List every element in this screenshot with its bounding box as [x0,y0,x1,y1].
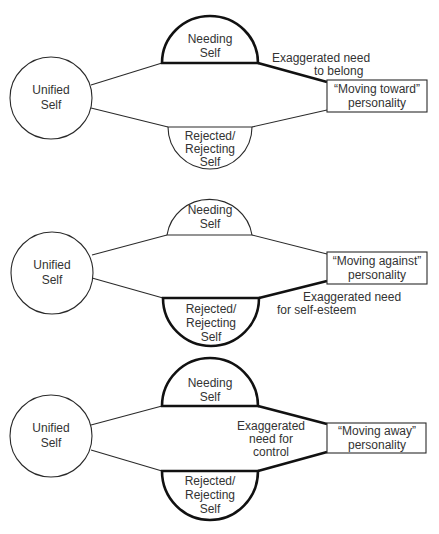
annotation-line-1: Exaggerated [237,419,305,433]
personality-box-label-2: personality [348,96,406,110]
unified-self-label-1: Unified [33,258,70,272]
rejected-self-label-1: Rejected/ [186,302,237,316]
unified-self-label-1: Unified [32,421,69,435]
needing-self-label-1: Needing [188,376,233,390]
needing-self-label-1: Needing [188,32,233,46]
connector-unified-to-rejected [91,108,168,127]
annotation-line-3: control [253,445,289,459]
needing-self-label-2: Self [200,46,221,60]
unified-self-label-2: Self [42,273,63,287]
panel-moving-away: Unified Self Needing Self Rejected/ Reje… [10,358,426,520]
connector-needing-to-box [252,235,327,254]
needing-self-label-2: Self [200,390,221,404]
connector-unified-to-rejected [92,278,163,298]
panel-moving-against: Unified Self Needing Self Rejected/ Reje… [11,199,427,346]
annotation-line-1: Exaggerated need [303,290,401,304]
annotation-line-1: Exaggerated need [272,51,370,65]
unified-self-label-2: Self [41,436,62,450]
rejected-self-label-1: Rejected/ [185,129,236,143]
rejected-self-label-2: Rejecting [185,142,235,156]
connector-unified-to-needing [92,235,167,255]
unified-self-label-1: Unified [32,83,69,97]
needing-self-label-1: Needing [188,203,233,217]
rejected-self-label-1: Rejected/ [185,474,236,488]
annotation-line-2: for self-esteem [277,303,356,317]
personality-box-label-2: personality [348,268,406,282]
needing-self-label-2: Self [200,217,221,231]
rejected-self-label-3: Self [201,330,222,344]
connector-unified-to-needing [91,63,162,85]
personality-box-label-1: “Moving against” [333,254,422,268]
annotation-line-2: need for [249,432,293,446]
unified-self-label-2: Self [41,98,62,112]
personality-box-label-1: “Moving toward” [334,82,420,96]
personality-box-label-2: personality [348,438,406,452]
connector-rejected-to-box [252,110,327,127]
rejected-self-label-2: Rejecting [185,488,235,502]
personality-box-label-1: “Moving away” [338,424,416,438]
personality-diagram: Unified Self Needing Self Rejected/ Reje… [0,0,439,534]
rejected-self-label-2: Rejecting [186,316,236,330]
panel-moving-toward: Unified Self Needing Self Rejected/ Reje… [10,16,427,169]
connector-unified-to-rejected [91,450,162,471]
rejected-self-label-3: Self [200,155,221,169]
annotation-line-2: to belong [314,64,363,78]
connector-unified-to-needing [91,406,162,425]
rejected-self-label-3: Self [200,502,221,516]
